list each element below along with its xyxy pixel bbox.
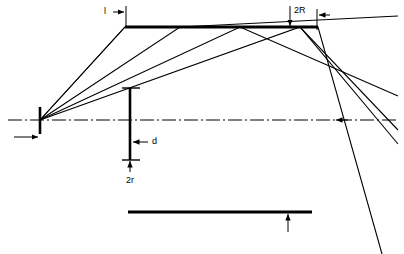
- ray-path-1: [40, 16, 398, 120]
- label-length: l: [104, 6, 106, 16]
- ray-bundle: [40, 16, 398, 254]
- ray-path-4: [40, 27, 382, 254]
- optical-ray-diagram: l 2R d 2r: [0, 0, 404, 254]
- label-exit-diameter: 2r: [126, 175, 134, 185]
- ray-path-5: [40, 27, 398, 144]
- label-entrance-diameter: 2R: [294, 5, 306, 15]
- ray-path-3: [40, 27, 398, 130]
- diagram-canvas: l 2R d 2r: [0, 0, 404, 254]
- label-distance: d: [152, 136, 157, 146]
